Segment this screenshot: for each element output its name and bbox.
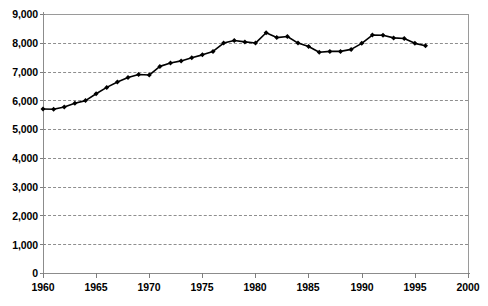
y-axis-line bbox=[43, 12, 44, 275]
y-axis-tick-label: 6,000 bbox=[2, 96, 38, 106]
gridline-1000 bbox=[43, 244, 468, 245]
y-axis-labels: 9,000 8,000 7,000 6,000 5,000 4,000 3,00… bbox=[0, 0, 38, 306]
y-axis-tick-label: 4,000 bbox=[2, 153, 38, 163]
line-chart: 9,000 8,000 7,000 6,000 5,000 4,000 3,00… bbox=[0, 0, 488, 306]
gridline-5000 bbox=[43, 129, 468, 130]
x-axis-tick-label: 1975 bbox=[180, 281, 224, 293]
x-axis-tick-1970 bbox=[149, 273, 150, 278]
y-axis-tick-label: 7,000 bbox=[2, 67, 38, 77]
x-axis-tick-1985 bbox=[308, 273, 309, 278]
x-axis-tick-label: 1960 bbox=[21, 281, 65, 293]
data-point bbox=[370, 33, 375, 38]
data-point bbox=[306, 44, 311, 49]
plot-frame-right bbox=[468, 14, 469, 273]
y-axis-tick-label: 1,000 bbox=[2, 240, 38, 250]
data-point bbox=[147, 73, 152, 78]
x-axis-tick-1995 bbox=[415, 273, 416, 278]
y-axis-tick-label: 5,000 bbox=[2, 124, 38, 134]
x-axis-tick-1960 bbox=[43, 273, 44, 278]
gridline-7000 bbox=[43, 72, 468, 73]
data-point bbox=[274, 35, 279, 40]
x-axis-tick-label: 1980 bbox=[233, 281, 277, 293]
data-point bbox=[62, 104, 67, 109]
series-line bbox=[43, 33, 426, 110]
gridline-6000 bbox=[43, 100, 468, 101]
x-axis-tick-1965 bbox=[96, 273, 97, 278]
plot-frame-top bbox=[43, 14, 468, 15]
data-point bbox=[349, 47, 354, 52]
data-point bbox=[94, 91, 99, 96]
x-axis-tick-label: 1985 bbox=[286, 281, 330, 293]
data-point bbox=[381, 33, 386, 38]
x-axis-tick-2000 bbox=[468, 273, 469, 278]
data-point bbox=[157, 64, 162, 69]
data-point bbox=[317, 50, 322, 55]
data-series-svg bbox=[0, 0, 488, 306]
data-point bbox=[264, 30, 269, 35]
x-axis-tick-label: 1995 bbox=[393, 281, 437, 293]
gridline-2000 bbox=[43, 215, 468, 216]
data-point bbox=[179, 58, 184, 63]
data-point bbox=[104, 85, 109, 90]
x-axis-tick-1980 bbox=[255, 273, 256, 278]
gridline-3000 bbox=[43, 187, 468, 188]
data-point bbox=[391, 35, 396, 40]
data-point bbox=[126, 75, 131, 80]
x-axis-tick-1975 bbox=[202, 273, 203, 278]
x-axis-tick-label: 1990 bbox=[340, 281, 384, 293]
data-point bbox=[285, 34, 290, 39]
y-axis-tick-label: 0 bbox=[2, 268, 38, 278]
y-axis-tick-label: 2,000 bbox=[2, 211, 38, 221]
data-point bbox=[200, 52, 205, 57]
data-point bbox=[402, 36, 407, 41]
data-point bbox=[189, 55, 194, 60]
data-point bbox=[338, 49, 343, 54]
gridline-4000 bbox=[43, 158, 468, 159]
x-axis-tick-label: 1965 bbox=[74, 281, 118, 293]
data-point bbox=[115, 79, 120, 84]
y-axis-tick-label: 3,000 bbox=[2, 182, 38, 192]
data-point bbox=[211, 49, 216, 54]
y-axis-tick-label: 9,000 bbox=[2, 9, 38, 19]
data-point bbox=[168, 60, 173, 65]
y-axis-tick-label: 8,000 bbox=[2, 38, 38, 48]
gridline-8000 bbox=[43, 43, 468, 44]
x-axis-tick-1990 bbox=[362, 273, 363, 278]
x-axis-tick-label: 2000 bbox=[446, 281, 488, 293]
x-axis-tick-label: 1970 bbox=[127, 281, 171, 293]
data-point bbox=[327, 49, 332, 54]
data-point bbox=[72, 101, 77, 106]
data-point bbox=[51, 107, 56, 112]
